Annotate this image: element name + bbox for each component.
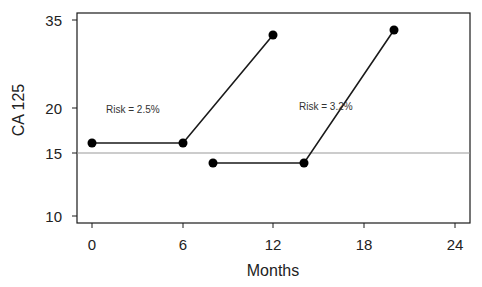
y-axis-title: CA 125 bbox=[10, 84, 27, 137]
x-tick-6: 6 bbox=[179, 236, 187, 253]
x-axis-title: Months bbox=[247, 262, 299, 279]
y-tick-10: 10 bbox=[45, 208, 62, 225]
y-axis: 35 20 15 10 bbox=[45, 12, 77, 225]
x-tick-12: 12 bbox=[265, 236, 282, 253]
y-tick-15: 15 bbox=[45, 145, 62, 162]
y-tick-20: 20 bbox=[45, 100, 62, 117]
x-tick-0: 0 bbox=[88, 236, 96, 253]
y-tick-35: 35 bbox=[45, 12, 62, 29]
x-tick-18: 18 bbox=[356, 236, 373, 253]
series-patient-b bbox=[209, 26, 399, 168]
annotation-risk-a: Risk = 2.5% bbox=[106, 104, 160, 115]
x-axis: 0 6 12 18 24 bbox=[88, 223, 464, 253]
x-tick-24: 24 bbox=[447, 236, 464, 253]
series-patient-a bbox=[88, 31, 278, 148]
plot-frame bbox=[77, 13, 470, 223]
chart: 35 20 15 10 0 6 12 18 24 Months CA 125 R… bbox=[0, 0, 482, 287]
annotation-risk-b: Risk = 3.2% bbox=[299, 101, 353, 112]
